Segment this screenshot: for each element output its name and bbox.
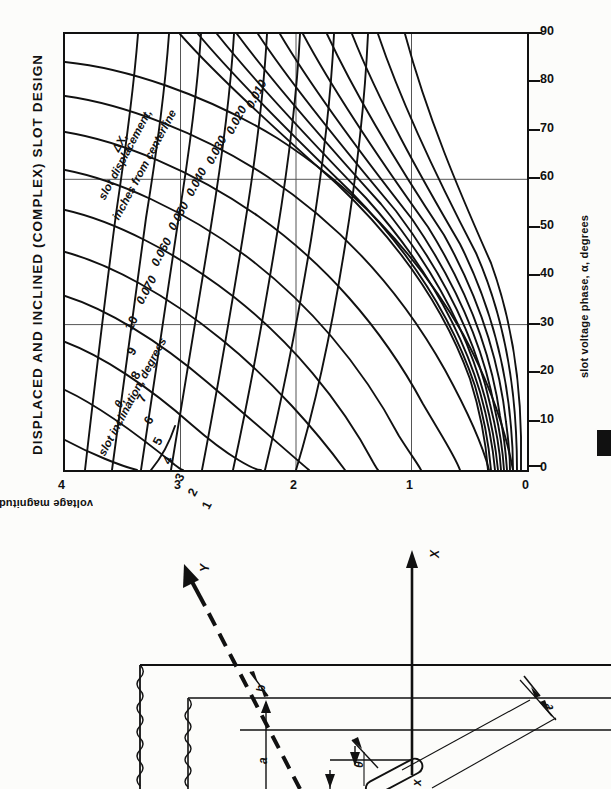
phase-axis-ticks bbox=[529, 30, 543, 470]
ytick-4: 4 bbox=[58, 478, 65, 492]
axis-label-x: X bbox=[428, 550, 442, 558]
document-page: DISPLACED AND INCLINED (COMPLEX) SLOT DE… bbox=[0, 0, 611, 789]
value-axis-label: voltage magnitude ratio, V/A, volts/(vol… bbox=[0, 498, 93, 510]
phase-axis-label: slot voltage phase, α, degrees bbox=[578, 215, 590, 378]
curve-label-theta-1: 1 bbox=[199, 499, 215, 512]
ytick-0: 0 bbox=[522, 478, 529, 492]
waveguide-drawing bbox=[0, 520, 611, 789]
dimension-label-ell: ℓ bbox=[542, 704, 556, 710]
chart-title: DISPLACED AND INCLINED (COMPLEX) SLOT DE… bbox=[30, 54, 45, 455]
axis-label-y: Y bbox=[198, 564, 212, 572]
angle-label-theta: θ bbox=[352, 761, 366, 768]
offset-label-x: x bbox=[410, 779, 424, 786]
ytick-1: 1 bbox=[406, 478, 413, 492]
figure-nomograph: DISPLACED AND INCLINED (COMPLEX) SLOT DE… bbox=[0, 0, 611, 520]
page-edge-mark bbox=[597, 430, 611, 456]
dimension-label-b: b bbox=[254, 685, 268, 692]
curve-label-theta-2: 2 bbox=[185, 486, 201, 499]
ytick-2: 2 bbox=[290, 478, 297, 492]
dimension-label-a: a bbox=[256, 757, 270, 764]
figure-slot-geometry: THE SLOT GEOMETRY ( RG-52 waveguide) bbox=[0, 520, 611, 789]
